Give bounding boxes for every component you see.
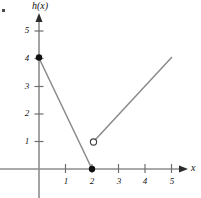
decreasing-line-segment [39,58,92,169]
closed-point-2-0 [89,166,95,172]
y-axis-label: h(x) [32,1,48,11]
y-tick-label-5: 5 [20,26,34,35]
increasing-line-segment [96,57,173,140]
x-tick-label-4: 4 [138,177,152,186]
open-point-2-1 [90,139,96,145]
function-graph-figure: 1 2 3 4 5 1 2 3 4 5 h(x) x [0,0,201,198]
y-tick-label-3: 3 [20,82,34,91]
x-tick-label-1: 1 [59,177,73,186]
x-tick-label-2: 2 [85,177,99,186]
x-tick-label-3: 3 [112,177,126,186]
y-tick-label-1: 1 [20,137,34,146]
x-tick-label-5: 5 [165,177,179,186]
y-axis-arrowhead [36,13,43,22]
x-axis-label: x [191,163,195,173]
x-axis-arrowhead [179,166,188,173]
closed-point-0-4 [36,54,42,60]
y-tick-label-4: 4 [20,54,34,63]
y-tick-label-2: 2 [20,109,34,118]
